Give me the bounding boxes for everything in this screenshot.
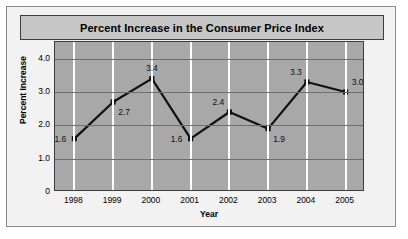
y-axis-tick-label: 1.0 (38, 153, 50, 163)
x-axis-title: Year (54, 209, 364, 219)
y-axis-tick-label: 2.0 (38, 119, 50, 129)
chart-figure: Percent Increase in the Consumer Price I… (6, 6, 396, 227)
horizontal-gridline (55, 159, 363, 160)
data-point-label: 1.6 (171, 134, 183, 144)
data-point-label: 3.4 (146, 63, 158, 73)
y-axis-tick-labels: 01.02.03.04.0 (21, 41, 50, 191)
x-axis-tick-label: 1998 (64, 195, 83, 205)
vertical-gridline (267, 42, 269, 190)
chart-title-bar: Percent Increase in the Consumer Price I… (20, 15, 384, 40)
page-title: Percent Increase in the Consumer Price I… (80, 22, 324, 34)
plot-inner: 1.62.73.41.62.41.93.33.0 (55, 42, 363, 190)
vertical-gridline (345, 42, 347, 190)
data-point-label: 3.0 (352, 77, 363, 87)
data-point-label: 1.6 (55, 134, 66, 144)
vertical-gridline (73, 42, 75, 190)
horizontal-gridline (55, 92, 363, 93)
y-axis-tick-label: 3.0 (38, 86, 50, 96)
x-axis-tick-labels: 19981999200020012002200320042005 (54, 195, 364, 209)
vertical-gridline (228, 42, 230, 190)
x-axis-tick-label: 1999 (103, 195, 122, 205)
vertical-gridline (190, 42, 192, 190)
x-axis-tick-label: 2001 (180, 195, 199, 205)
x-axis-tick-label: 2005 (335, 195, 354, 205)
data-point-label: 1.9 (273, 134, 285, 144)
vertical-gridline (112, 42, 114, 190)
plot-area: 1.62.73.41.62.41.93.33.0 (54, 41, 364, 191)
vertical-gridline (306, 42, 308, 190)
y-axis-tick-label: 4.0 (38, 53, 50, 63)
x-axis-tick-label: 2000 (141, 195, 160, 205)
x-axis-tick-label: 2002 (219, 195, 238, 205)
data-point-label: 2.7 (118, 107, 130, 117)
data-point-label: 2.4 (212, 97, 224, 107)
horizontal-gridline (55, 59, 363, 60)
series-line-cpi (55, 42, 363, 190)
x-axis-tick-label: 2003 (258, 195, 277, 205)
data-point-label: 3.3 (290, 67, 302, 77)
x-axis-tick-label: 2004 (296, 195, 315, 205)
horizontal-gridline (55, 125, 363, 126)
y-axis-tick-label: 0 (45, 186, 50, 196)
